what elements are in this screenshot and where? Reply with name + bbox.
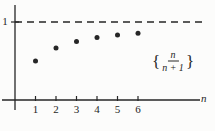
x-tick-label: 1	[30, 103, 42, 116]
close-brace-glyph: }	[185, 53, 195, 70]
x-tick-label: 3	[71, 103, 83, 116]
fraction-denominator: n + 1	[161, 62, 185, 73]
y-axis-tick-label: 1	[0, 15, 10, 28]
fraction: n n + 1	[161, 50, 185, 73]
x-tick-label: 6	[132, 103, 144, 116]
x-tick-label: 5	[112, 103, 124, 116]
sequence-label: { n n + 1 }	[151, 50, 195, 73]
x-tick-label: 2	[50, 103, 62, 116]
data-point	[54, 45, 59, 50]
sequence-plot-figure: 1 n 123456 { n n + 1 }	[0, 0, 215, 131]
data-point	[136, 31, 141, 36]
data-point	[74, 39, 79, 44]
x-axis-label: n	[201, 92, 207, 105]
data-point	[95, 35, 100, 40]
fraction-numerator: n	[168, 50, 179, 62]
data-point	[115, 33, 120, 38]
open-brace-glyph: {	[151, 53, 161, 70]
x-tick-label: 4	[91, 103, 103, 116]
data-point	[33, 59, 38, 64]
